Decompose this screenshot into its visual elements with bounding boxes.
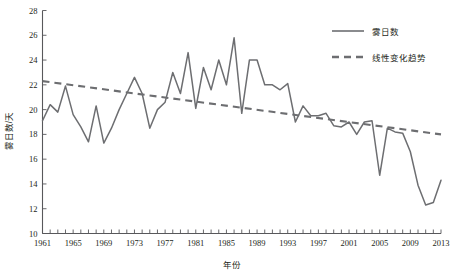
x-tick-label: 1973 [126,238,143,248]
y-tick-label: 16 [29,154,38,164]
x-tick-label: 1969 [95,238,112,248]
fog-days-series-line [43,38,442,205]
y-axis: 10121416182022242628 [29,6,47,239]
y-tick-label: 28 [29,6,38,16]
y-tick-label-group: 10121416182022242628 [29,6,38,239]
x-axis-title: 年份 [223,260,241,270]
data-layer [43,38,442,205]
x-tick-label: 2001 [341,238,358,248]
x-tick-label: 1977 [157,238,174,248]
fog-days-line-chart: 10121416182022242628 1961196519691973197… [0,0,458,275]
x-tick-label: 2005 [371,238,388,248]
y-tick-label: 12 [29,204,38,214]
x-tick-label: 1989 [249,238,266,248]
y-tick-label: 22 [29,80,38,90]
legend: 雾日数 线性变化趋势 [332,27,426,63]
x-tick-label: 1961 [34,238,51,248]
x-tick-label: 1993 [279,238,296,248]
x-tick-label: 2009 [402,238,419,248]
x-tick-label: 1965 [65,238,82,248]
x-tick-group [43,230,442,234]
legend-label-fog-days: 雾日数 [372,27,399,37]
y-tick-label: 24 [29,55,38,65]
y-axis-title: 雾日数/天 [4,112,14,150]
x-axis: 1961196519691973197719811985198919931997… [34,230,450,248]
x-tick-label: 1997 [310,238,327,248]
chart-root: 10121416182022242628 1961196519691973197… [0,0,458,275]
y-tick-label: 18 [29,129,38,139]
x-tick-label-group: 1961196519691973197719811985198919931997… [34,238,450,248]
y-tick-group [43,11,47,234]
y-tick-label: 20 [29,105,38,115]
legend-label-linear-trend: 线性变化趋势 [372,53,426,63]
x-tick-label: 1981 [187,238,204,248]
x-tick-label: 2013 [433,238,450,248]
y-tick-label: 14 [29,179,38,189]
x-tick-label: 1985 [218,238,235,248]
y-tick-label: 26 [29,30,38,40]
